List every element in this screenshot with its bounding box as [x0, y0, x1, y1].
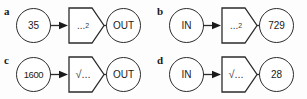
- panel-label: b: [157, 6, 163, 17]
- output-node: 28: [259, 57, 294, 92]
- panel-label: a: [4, 6, 10, 17]
- operator-label: √...: [221, 56, 251, 93]
- input-value: 1600: [24, 70, 44, 80]
- output-value: 729: [268, 21, 284, 31]
- output-value: 28: [271, 70, 282, 80]
- output-value: OUT: [113, 21, 134, 31]
- panel-c: c 1600 √... OUT: [0, 50, 153, 99]
- arrow-icon: [203, 21, 222, 30]
- input-value: 35: [28, 21, 39, 31]
- output-node: OUT: [106, 57, 141, 92]
- operator-shape: ...2: [221, 7, 258, 44]
- panel-d: d IN √... 28: [153, 50, 306, 99]
- input-node: 1600: [16, 57, 51, 92]
- arrow-icon: [50, 21, 69, 30]
- operator-base: √...: [228, 69, 243, 80]
- output-node: OUT: [106, 8, 141, 43]
- panel-b: b IN ...2 729: [153, 1, 306, 50]
- operator-base: ...: [230, 21, 238, 31]
- input-value: IN: [182, 21, 192, 31]
- panel-a: a 35 ...2 OUT: [0, 1, 153, 50]
- operator-label: √...: [68, 56, 98, 93]
- operator-base: √...: [75, 69, 90, 80]
- input-node: 35: [16, 8, 51, 43]
- operator-base: ...: [77, 21, 85, 31]
- panel-label: d: [157, 55, 163, 66]
- figure-canvas: a 35 ...2 OUT b IN ...2: [0, 0, 307, 99]
- operator-shape: ...2: [68, 7, 105, 44]
- panel-label: c: [4, 55, 9, 66]
- input-value: IN: [182, 70, 192, 80]
- arrow-icon: [50, 70, 69, 79]
- operator-label: ...2: [221, 7, 251, 44]
- operator-shape: √...: [68, 56, 105, 93]
- output-value: OUT: [113, 70, 134, 80]
- output-node: 729: [259, 8, 294, 43]
- input-node: IN: [169, 57, 204, 92]
- input-node: IN: [169, 8, 204, 43]
- operator-label: ...2: [68, 7, 98, 44]
- arrow-icon: [203, 70, 222, 79]
- operator-shape: √...: [221, 56, 258, 93]
